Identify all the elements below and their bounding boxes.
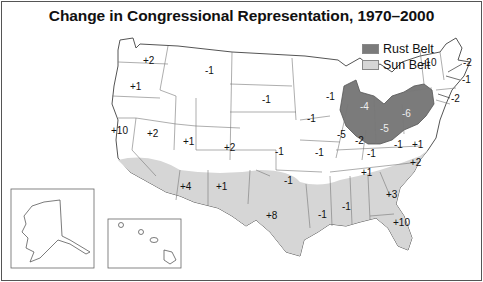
label-ms: -1	[342, 201, 351, 212]
label-fl: +10	[393, 217, 410, 228]
legend: Rust Belt Sun Belt	[362, 41, 434, 73]
label-in: -2	[355, 135, 364, 146]
label-nc: +2	[410, 157, 422, 168]
label-sd: -1	[262, 94, 271, 105]
label-wa: +2	[143, 55, 155, 66]
label-pa: -6	[402, 108, 411, 119]
label-oh: -5	[380, 123, 389, 134]
rust-belt-swatch	[362, 44, 379, 54]
alaska-inset	[11, 189, 94, 268]
label-nj: -2	[451, 93, 460, 104]
label-wi: -1	[326, 91, 335, 102]
label-tn: +1	[361, 167, 373, 178]
label-mi: -4	[360, 101, 369, 112]
label-nm: +1	[216, 181, 228, 192]
label-va: +1	[412, 139, 424, 150]
label-la: -1	[318, 209, 327, 220]
label-mt: -1	[205, 65, 214, 76]
label-ma: -2	[463, 57, 472, 68]
label-az: +4	[180, 181, 192, 192]
label-il: -5	[337, 129, 346, 140]
label-ok: -1	[284, 175, 293, 186]
label-ks: -1	[275, 146, 284, 157]
label-ct: -1	[462, 74, 471, 85]
label-nv: +2	[147, 128, 159, 139]
hawaii-inset	[108, 219, 181, 268]
label-wv: -1	[394, 139, 403, 150]
label-ia: -1	[307, 113, 316, 124]
label-ga: +3	[386, 189, 398, 200]
legend-label: Sun Belt	[383, 58, 430, 72]
sun-belt-swatch	[362, 60, 379, 70]
label-ky: -1	[367, 148, 376, 159]
label-ca: +10	[111, 125, 128, 136]
legend-item-sun-belt: Sun Belt	[362, 57, 434, 73]
label-ut: +1	[183, 136, 195, 147]
legend-label: Rust Belt	[383, 42, 434, 56]
label-or: +1	[130, 81, 142, 92]
label-tx: +8	[266, 210, 278, 221]
label-mo: -1	[315, 147, 324, 158]
legend-item-rust-belt: Rust Belt	[362, 41, 434, 57]
label-co: +2	[224, 142, 236, 153]
